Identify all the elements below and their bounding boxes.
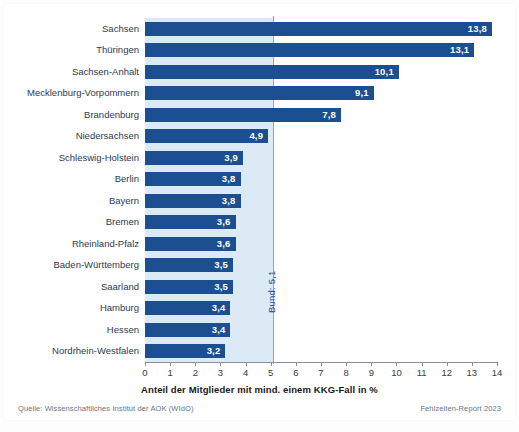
category-label: Brandenburg [84, 110, 139, 120]
bar-row: Baden-Württemberg3,5 [145, 258, 497, 272]
bar-value-label: 3,5 [214, 282, 228, 292]
x-tick [271, 362, 272, 366]
x-tick [321, 362, 322, 366]
category-label: Schleswig-Holstein [59, 153, 139, 163]
category-label: Hamburg [100, 304, 139, 314]
source-note: Quelle: Wissenschaftliches Institut der … [18, 404, 193, 413]
bar-row: Brandenburg7,8 [145, 108, 497, 122]
bar-row: Schleswig-Holstein3,9 [145, 151, 497, 165]
x-tick [346, 362, 347, 366]
bar: 13,1 [145, 43, 474, 57]
bar-value-label: 3,6 [217, 218, 231, 228]
x-tick-label: 5 [268, 368, 273, 378]
bar-row: Bremen3,6 [145, 215, 497, 229]
x-tick-label: 3 [218, 368, 223, 378]
bar-value-label: 3,8 [222, 175, 236, 185]
bar-row: Bayern3,8 [145, 194, 497, 208]
x-tick [447, 362, 448, 366]
bar-value-label: 3,8 [222, 196, 236, 206]
bar: 3,9 [145, 151, 243, 165]
bar: 3,8 [145, 194, 241, 208]
x-tick-label: 8 [343, 368, 348, 378]
bar-row: Nordrhein-Westfalen3,2 [145, 344, 497, 358]
bar-row: Sachsen13,8 [145, 22, 497, 36]
bar: 13,8 [145, 22, 492, 36]
category-label: Hessen [107, 325, 139, 335]
bar: 3,5 [145, 280, 233, 294]
bar-value-label: 13,8 [468, 24, 487, 34]
bar-row: Mecklenburg-Vorpommern9,1 [145, 86, 497, 100]
category-label: Baden-Württemberg [53, 261, 139, 271]
bar-row: Rheinland-Pfalz3,6 [145, 237, 497, 251]
category-label: Nordrhein-Westfalen [52, 347, 139, 357]
x-tick-label: 7 [318, 368, 323, 378]
category-label: Sachsen [102, 24, 139, 34]
x-tick-label: 2 [193, 368, 198, 378]
bar: 3,6 [145, 215, 236, 229]
category-label: Bremen [106, 218, 139, 228]
bar: 3,5 [145, 258, 233, 272]
bar-value-label: 4,9 [249, 132, 263, 142]
bar-row: Sachsen-Anhalt10,1 [145, 65, 497, 79]
x-tick-label: 12 [441, 368, 452, 378]
bar-value-label: 3,9 [224, 153, 238, 163]
bar: 3,2 [145, 344, 225, 358]
bar-value-label: 3,6 [217, 239, 231, 249]
category-label: Thüringen [96, 46, 139, 56]
x-tick [170, 362, 171, 366]
x-tick [371, 362, 372, 366]
category-label: Rheinland-Pfalz [72, 239, 139, 249]
category-label: Saarland [101, 282, 139, 292]
bar-value-label: 10,1 [375, 67, 394, 77]
x-tick [472, 362, 473, 366]
bar: 4,9 [145, 129, 268, 143]
bar-value-label: 3,2 [207, 347, 221, 357]
bar-row: Hessen3,4 [145, 323, 497, 337]
bar: 3,4 [145, 323, 230, 337]
bar: 10,1 [145, 65, 399, 79]
bar-row: Berlin3,8 [145, 172, 497, 186]
x-tick [396, 362, 397, 366]
x-tick-label: 13 [467, 368, 478, 378]
x-tick [246, 362, 247, 366]
bar: 9,1 [145, 86, 374, 100]
x-tick [497, 362, 498, 366]
x-axis-title: Anteil der Mitglieder mit mind. einem KK… [0, 384, 519, 395]
bar-value-label: 13,1 [450, 46, 469, 56]
bar-value-label: 9,1 [355, 89, 369, 99]
x-tick-label: 11 [417, 368, 427, 378]
x-tick-label: 0 [142, 368, 147, 378]
bar-row: Hamburg3,4 [145, 301, 497, 315]
plot-area: Bund: 5,1 Sachsen13,8Thüringen13,1Sachse… [145, 18, 497, 362]
category-label: Mecklenburg-Vorpommern [27, 89, 139, 99]
x-tick-label: 6 [293, 368, 298, 378]
x-tick [145, 362, 146, 366]
bar-value-label: 3,4 [212, 304, 226, 314]
x-tick-label: 1 [167, 368, 172, 378]
bar-value-label: 3,4 [212, 325, 226, 335]
bar: 3,8 [145, 172, 241, 186]
category-label: Berlin [115, 175, 139, 185]
x-tick-label: 4 [243, 368, 248, 378]
category-label: Niedersachsen [76, 132, 139, 142]
bar-row: Niedersachsen4,9 [145, 129, 497, 143]
report-note: Fehlzeiten-Report 2023 [420, 404, 501, 413]
bar-row: Saarland3,5 [145, 280, 497, 294]
bar: 3,6 [145, 237, 236, 251]
bar-value-label: 7,8 [322, 110, 336, 120]
bar: 7,8 [145, 108, 341, 122]
bar-value-label: 3,5 [214, 261, 228, 271]
bar: 3,4 [145, 301, 230, 315]
x-tick [195, 362, 196, 366]
bar-row: Thüringen13,1 [145, 43, 497, 57]
x-tick [422, 362, 423, 366]
category-label: Bayern [109, 196, 139, 206]
chart-figure: Bund: 5,1 Sachsen13,8Thüringen13,1Sachse… [0, 0, 519, 432]
x-tick-label: 14 [492, 368, 503, 378]
x-tick [296, 362, 297, 366]
x-tick-label: 10 [391, 368, 402, 378]
x-tick [220, 362, 221, 366]
x-tick-label: 9 [369, 368, 374, 378]
category-label: Sachsen-Anhalt [72, 67, 139, 77]
